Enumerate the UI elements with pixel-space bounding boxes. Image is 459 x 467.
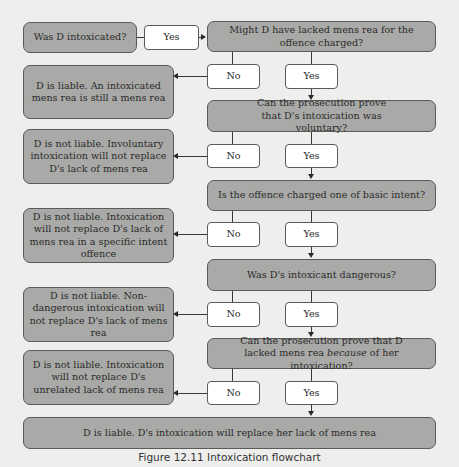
question-1-box: Might D have lacked mens rea for the off… [207,21,436,52]
question-4-yes-label: Yes [285,302,338,327]
question-4-box: Was D's intoxicant dangerous? [207,259,436,291]
outcome-2-box: D is not liable. Involuntary intoxicatio… [23,129,174,184]
figure-caption: Figure 12.11 Intoxication flowchart [0,451,459,463]
final-outcome-text: D is liable. D's intoxication will repla… [83,427,376,440]
connector-line [232,211,233,222]
question-5-yes-label: Yes [285,381,338,405]
question-2-no-label: No [207,144,260,168]
connector-line [178,314,207,315]
connector-line [311,211,312,222]
yes-label-text: Yes [303,387,319,400]
arrow-down-icon [308,411,314,416]
final-outcome-box: D is liable. D's intoxication will repla… [23,417,436,449]
question-5-box: Can the prosecution prove that D lacked … [207,338,436,369]
connector-line [137,37,144,38]
question-3-box: Is the offence charged one of basic inte… [207,180,436,211]
question-5-text-emphasis: because [327,347,367,358]
start-question-box: Was D intoxicated? [23,22,137,53]
connector-line [232,291,233,302]
no-label-text: No [226,387,240,400]
no-label-text: No [226,308,240,321]
arrow-right-icon [201,34,206,40]
outcome-3-box: D is not liable. Intoxication will not r… [23,208,174,263]
start-yes-label: Yes [144,25,199,50]
connector-line [311,369,312,381]
no-label-text: No [226,228,240,241]
question-2-box: Can the prosecution prove that D's intox… [207,100,436,132]
question-4-no-label: No [207,302,260,327]
connector-line [311,132,312,144]
yes-label-text: Yes [303,308,319,321]
connector-line [178,234,207,235]
outcome-3-text: D is not liable. Intoxication will not r… [28,211,169,261]
question-2-yes-label: Yes [285,144,338,168]
yes-label-text: Yes [163,31,179,44]
connector-line [178,76,207,77]
question-4-text: Was D's intoxicant dangerous? [247,269,396,282]
outcome-5-box: D is not liable. Intoxication will not r… [23,350,174,405]
question-1-text: Might D have lacked mens rea for the off… [212,24,431,49]
question-3-yes-label: Yes [285,222,338,247]
arrow-down-icon [308,174,314,179]
question-3-no-label: No [207,222,260,247]
question-5-text: Can the prosecution prove that D lacked … [212,335,431,373]
connector-line [311,291,312,302]
question-1-no-label: No [207,64,260,89]
connector-line [232,369,233,381]
yes-label-text: Yes [303,150,319,163]
outcome-4-box: D is not liable. Non-dangerous intoxicat… [23,287,174,342]
connector-line [178,393,207,394]
question-3-text: Is the offence charged one of basic inte… [218,189,425,202]
connector-line [311,52,312,64]
arrow-down-icon [308,253,314,258]
outcome-4-text: D is not liable. Non-dangerous intoxicat… [28,290,169,340]
connector-line [178,156,207,157]
outcome-1-text: D is liable. An intoxicated mens rea is … [28,80,169,105]
outcome-2-text: D is not liable. Involuntary intoxicatio… [28,138,169,176]
connector-line [232,132,233,144]
question-2-text: Can the prosecution prove that D's intox… [212,97,431,135]
question-1-yes-label: Yes [285,64,338,89]
start-question-text: Was D intoxicated? [34,31,127,44]
question-5-no-label: No [207,381,260,405]
no-label-text: No [226,150,240,163]
yes-label-text: Yes [303,70,319,83]
no-label-text: No [226,70,240,83]
outcome-5-text: D is not liable. Intoxication will not r… [28,359,169,397]
connector-line [232,52,233,64]
outcome-1-box: D is liable. An intoxicated mens rea is … [23,65,174,119]
yes-label-text: Yes [303,228,319,241]
